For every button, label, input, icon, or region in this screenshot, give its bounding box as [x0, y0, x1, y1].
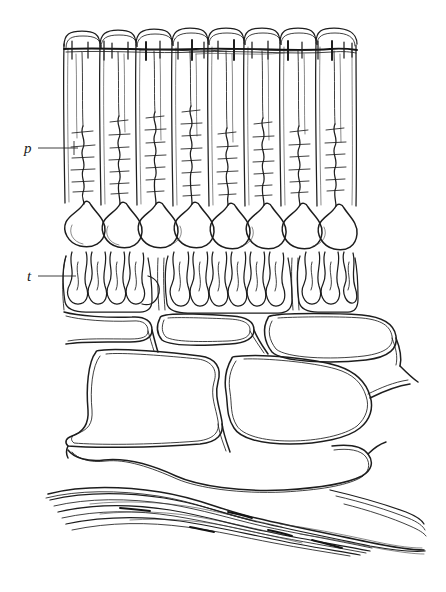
histology-drawing: p t [0, 0, 446, 592]
label-p: p [23, 140, 32, 156]
figure-root: p t [0, 0, 446, 592]
